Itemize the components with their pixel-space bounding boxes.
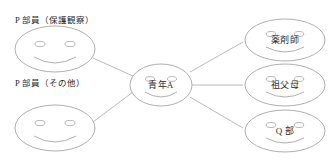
smiley-face-icon (15, 105, 95, 151)
caption-p-probation: P 部員（保護観察） (15, 16, 95, 25)
left-eye-icon (35, 120, 45, 125)
node-label-center: 青年A (131, 81, 191, 90)
node-p-probation[interactable] (15, 26, 95, 72)
node-label-pharmacist: 薬剤師 (255, 36, 315, 45)
caption-p-other: P 部員（その他） (15, 79, 85, 88)
right-eye-icon (65, 120, 75, 125)
relationship-diagram: P 部員（保護観察） P 部員（その他） 青年A 薬剤師 祖父母 Q 部 (0, 0, 328, 168)
smiley-face-icon (15, 26, 95, 72)
edge-other-center (93, 92, 133, 122)
edge-center-q-club (190, 97, 243, 128)
edge-probation-center (93, 58, 133, 76)
edge-center-pharmacist (190, 42, 243, 72)
node-label-grandparents: 祖父母 (255, 81, 315, 90)
right-eye-icon (65, 41, 75, 46)
node-p-other[interactable] (15, 105, 95, 151)
left-eye-icon (35, 41, 45, 46)
node-label-q-club: Q 部 (255, 127, 315, 136)
